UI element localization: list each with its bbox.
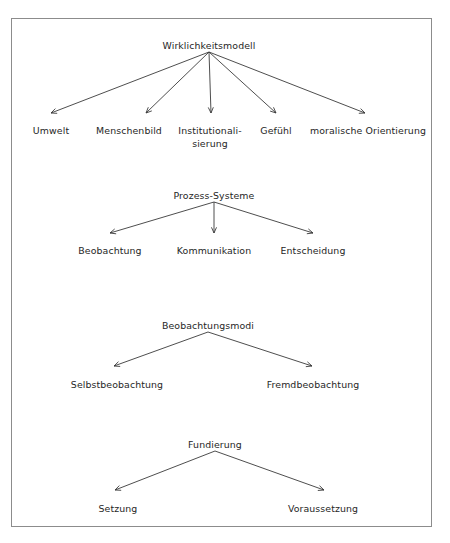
root-label-prozess-systeme: Prozess-Systeme — [174, 190, 255, 203]
node-label-fremdbeobachtung: Fremdbeobachtung — [267, 379, 360, 392]
root-label-beobachtungsmodi: Beobachtungsmodi — [162, 320, 254, 333]
node-label-selbstbeobachtung: Selbstbeobachtung — [71, 379, 163, 392]
node-label-institutionali-sierung: Institutionali- sierung — [167, 125, 253, 150]
node-label-kommunikation: Kommunikation — [177, 245, 251, 258]
diagram-root: WirklichkeitsmodellUmweltMenschenbildIns… — [0, 0, 450, 543]
node-label-moralische-orientierung: moralische Orientierung — [310, 125, 426, 138]
node-label-voraussetzung: Voraussetzung — [288, 503, 358, 516]
node-label-entscheidung: Entscheidung — [281, 245, 346, 258]
root-label-fundierung: Fundierung — [188, 439, 242, 452]
node-label-menschenbild: Menschenbild — [96, 125, 162, 138]
node-label-gefuehl: Gefühl — [260, 125, 291, 138]
root-label-wirklichkeitsmodell: Wirklichkeitsmodell — [163, 40, 256, 53]
node-label-beobachtung: Beobachtung — [78, 245, 141, 258]
node-label-setzung: Setzung — [99, 503, 138, 516]
node-label-umwelt: Umwelt — [33, 125, 69, 138]
